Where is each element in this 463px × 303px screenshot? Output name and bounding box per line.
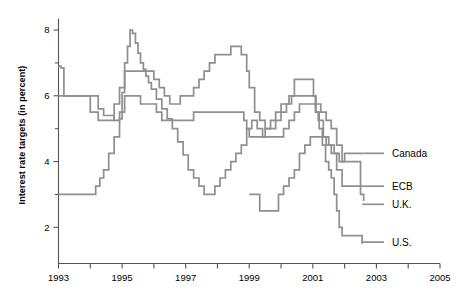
series-label-ecb: ECB [392,181,413,192]
y-axis-label: Interest rate targets (in percent) [17,35,27,235]
series-labels-group: CanadaECBU.K.U.S. [362,148,427,248]
x-tick-label: 2005 [429,272,450,283]
y-tick-label: 4 [44,156,49,167]
chart-figure: Interest rate targets (in percent) 24681… [0,0,463,303]
axis-lines [59,19,441,264]
x-tick-label: 1993 [48,272,69,283]
series-label-canada: Canada [392,148,427,159]
x-tick-label: 1999 [239,272,260,283]
series-line-us [59,79,363,243]
series-label-uk: U.K. [392,199,411,210]
x-tick-label: 1995 [112,272,133,283]
line-chart-svg: 24681993199519971999200120032005 CanadaE… [0,0,463,303]
y-tick-label: 6 [44,90,49,101]
x-tick-label: 2001 [302,272,323,283]
series-group [59,30,364,244]
y-tick-label: 8 [44,24,49,35]
x-tick-label: 1997 [175,272,196,283]
y-axis-label-container: Interest rate targets (in percent) [0,0,30,303]
series-line-ecb [249,137,363,211]
x-tick-label: 2003 [366,272,387,283]
series-label-us: U.S. [392,237,411,248]
y-tick-label: 2 [44,222,49,233]
